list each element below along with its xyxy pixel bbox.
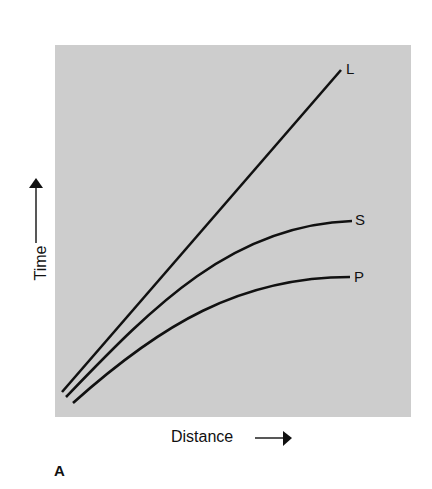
- y-axis-arrowhead-icon: [29, 178, 43, 188]
- y-axis-label: Time: [32, 243, 50, 283]
- series-label-P: P: [354, 269, 364, 285]
- panel-label: A: [54, 462, 65, 479]
- x-axis-label: Distance: [171, 428, 233, 446]
- chart-canvas: [0, 0, 432, 489]
- series-label-L: L: [346, 61, 354, 77]
- x-axis-arrowhead-icon: [283, 431, 292, 446]
- series-label-S: S: [355, 212, 365, 228]
- plot-area: [55, 45, 411, 417]
